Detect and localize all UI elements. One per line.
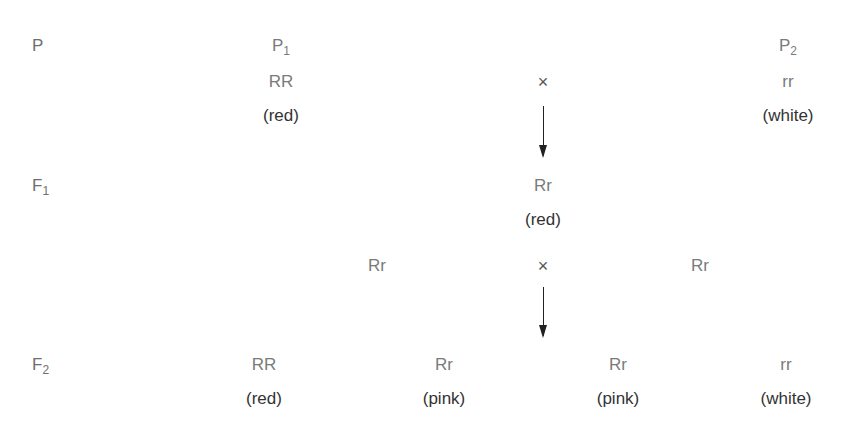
f2-genotype-3: Rr xyxy=(609,355,627,375)
f2-phenotype-3: (pink) xyxy=(597,389,640,409)
f2-genotype-2: Rr xyxy=(435,355,453,375)
f2-genotype-4: rr xyxy=(780,355,791,375)
generation-label-f1: F1 xyxy=(32,176,49,201)
parent-2-genotype: rr xyxy=(782,72,793,92)
f1-genotype: Rr xyxy=(534,176,552,196)
f1-phenotype: (red) xyxy=(525,210,561,230)
cross-symbol-f1: × xyxy=(538,256,549,276)
cross-symbol-p: × xyxy=(538,72,549,92)
generation-label-p: P xyxy=(32,36,43,56)
parent-1-label: P1 xyxy=(272,36,290,61)
f2-genotype-1: RR xyxy=(252,355,277,375)
f2-phenotype-1: (red) xyxy=(246,389,282,409)
arrow-down-icon xyxy=(543,106,544,156)
f2-phenotype-2: (pink) xyxy=(423,389,466,409)
f1-cross-right: Rr xyxy=(691,256,709,276)
f1-cross-left: Rr xyxy=(368,256,386,276)
f2-phenotype-4: (white) xyxy=(760,389,811,409)
parent-2-label: P2 xyxy=(779,36,797,61)
generation-label-f2: F2 xyxy=(32,355,49,380)
parent-1-genotype: RR xyxy=(269,72,294,92)
parent-1-phenotype: (red) xyxy=(263,106,299,126)
parent-2-phenotype: (white) xyxy=(762,106,813,126)
arrow-down-icon xyxy=(543,287,544,336)
